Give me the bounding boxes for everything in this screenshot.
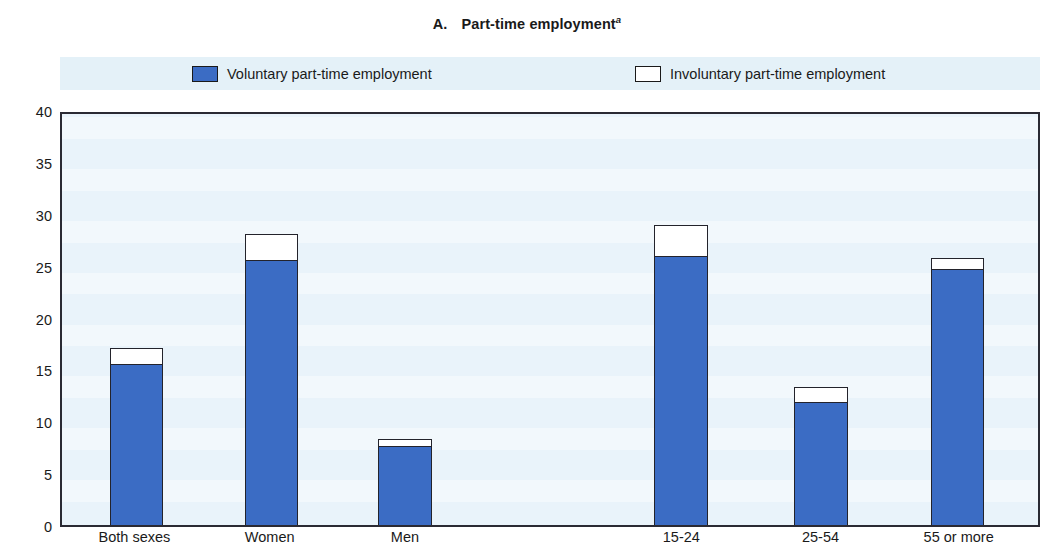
bar-segment-voluntary[interactable] [110, 364, 164, 525]
bar-group[interactable] [378, 439, 432, 525]
plot-area [60, 112, 1040, 527]
bars-layer [62, 114, 1038, 525]
panel-letter: A. [433, 16, 448, 32]
x-tick-label: 15-24 [663, 529, 700, 545]
bar-segment-involuntary[interactable] [931, 258, 985, 269]
bar-group[interactable] [110, 348, 164, 525]
bar-segment-voluntary[interactable] [794, 402, 848, 525]
x-tick-label: 25-54 [802, 529, 839, 545]
y-tick-label: 30 [36, 208, 52, 224]
chart-legend: Voluntary part-time employment Involunta… [60, 57, 1040, 90]
x-tick-label: 55 or more [924, 529, 994, 545]
bar-segment-voluntary[interactable] [245, 260, 299, 525]
y-tick-label: 5 [44, 467, 52, 483]
legend-swatch-voluntary-icon [192, 66, 218, 82]
bar-segment-involuntary[interactable] [245, 234, 299, 260]
y-tick-label: 15 [36, 363, 52, 379]
legend-label-involuntary: Involuntary part-time employment [670, 66, 885, 82]
x-tick-label: Both sexes [99, 529, 171, 545]
bar-segment-involuntary[interactable] [654, 225, 708, 256]
bar-segment-involuntary[interactable] [378, 439, 432, 446]
y-tick-label: 40 [36, 104, 52, 120]
x-tick-label: Men [391, 529, 419, 545]
legend-swatch-involuntary-icon [635, 66, 661, 82]
bar-group[interactable] [245, 234, 299, 525]
x-axis: Both sexesWomenMen15-2425-5455 or more [60, 529, 1040, 555]
y-tick-label: 10 [36, 415, 52, 431]
bar-segment-involuntary[interactable] [794, 387, 848, 401]
legend-item-involuntary[interactable]: Involuntary part-time employment [635, 57, 885, 90]
bar-group[interactable] [654, 225, 708, 525]
bar-group[interactable] [931, 258, 985, 525]
bar-segment-voluntary[interactable] [654, 256, 708, 525]
legend-label-voluntary: Voluntary part-time employment [227, 66, 432, 82]
y-tick-label: 20 [36, 312, 52, 328]
footnote-marker: a [616, 14, 621, 25]
bar-segment-involuntary[interactable] [110, 348, 164, 363]
y-tick-label: 0 [44, 519, 52, 535]
bar-segment-voluntary[interactable] [931, 269, 985, 525]
panel-title-text: Part-time employment [462, 16, 616, 32]
y-tick-label: 35 [36, 156, 52, 172]
x-tick-label: Women [245, 529, 295, 545]
legend-item-voluntary[interactable]: Voluntary part-time employment [192, 57, 432, 90]
bar-group[interactable] [794, 387, 848, 525]
bar-segment-voluntary[interactable] [378, 446, 432, 525]
y-axis: 0510152025303540 [0, 112, 52, 527]
y-tick-label: 25 [36, 260, 52, 276]
page-title: A.Part-time employmenta [0, 16, 1054, 32]
